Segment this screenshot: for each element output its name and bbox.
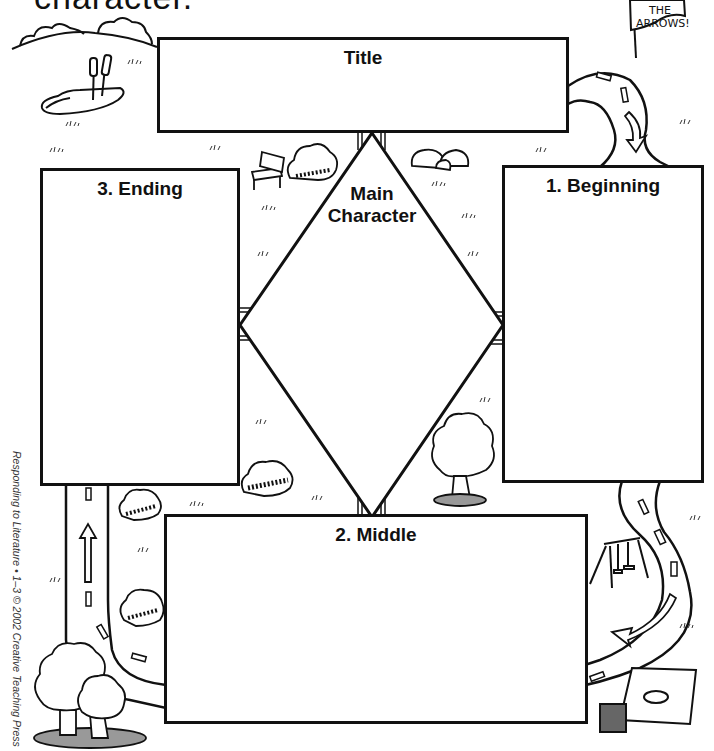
title-box[interactable]: Title bbox=[157, 37, 569, 133]
copyright-credit: Responding to Literature • 1–3 © 2002 Cr… bbox=[11, 451, 23, 741]
beginning-box[interactable]: 1. Beginning bbox=[502, 165, 704, 483]
cattails-icon bbox=[90, 55, 112, 100]
pond-icon bbox=[42, 88, 124, 114]
road-icon bbox=[568, 73, 670, 167]
instruction-text: character. bbox=[34, 0, 193, 17]
sign-line-3: ARROWS! bbox=[636, 17, 684, 30]
tree-icon bbox=[432, 413, 494, 506]
middle-box[interactable]: 2. Middle bbox=[164, 514, 588, 724]
bush-icon bbox=[288, 144, 337, 180]
ending-box-label: 3. Ending bbox=[43, 178, 237, 200]
beginning-box-label: 1. Beginning bbox=[505, 175, 701, 197]
hill-bushes-icon bbox=[12, 18, 157, 49]
sign-label: FOLLOW THE ARROWS! bbox=[636, 0, 684, 30]
bush-icon bbox=[120, 590, 163, 626]
sign-line-2: THE bbox=[636, 4, 684, 17]
rocks-icon bbox=[412, 150, 469, 170]
main-character-label-line1: Main bbox=[312, 183, 432, 205]
main-character-label: Main Character bbox=[312, 183, 432, 227]
middle-box-label: 2. Middle bbox=[167, 524, 585, 546]
bush-icon bbox=[242, 461, 293, 496]
main-character-label-line2: Character bbox=[312, 205, 432, 227]
bush-icon bbox=[119, 490, 161, 520]
bench-icon bbox=[252, 152, 284, 190]
swing-set-icon bbox=[590, 538, 648, 588]
title-box-label: Title bbox=[160, 47, 566, 69]
ending-box[interactable]: 3. Ending bbox=[40, 168, 240, 486]
